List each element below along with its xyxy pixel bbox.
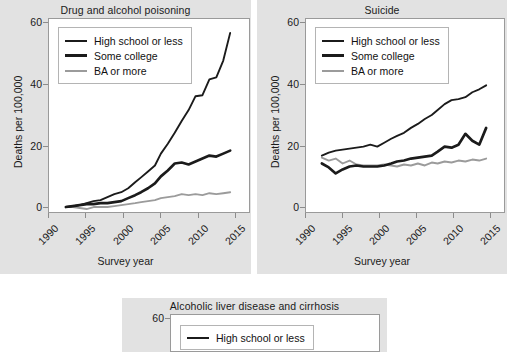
x-tick-label-1995: 1995 xyxy=(68,222,98,252)
series-line-some-college xyxy=(66,151,230,207)
panel-drug-and-alcohol-poisoning: Drug and alcohol poisoning Deaths per 10… xyxy=(0,0,251,274)
legend-item-some-college: Some college xyxy=(322,48,440,63)
y-tick-label-40: 40 xyxy=(273,78,299,90)
x-axis-title: Survey year xyxy=(0,255,251,267)
series-line-ba-or-more xyxy=(66,192,230,209)
x-tick-label-1990: 1990 xyxy=(31,222,61,252)
x-tick-mark-1990 xyxy=(305,213,306,218)
legend-item-ba-or-more: BA or more xyxy=(65,63,183,78)
x-tick-label-1995: 1995 xyxy=(325,222,355,252)
legend-label: High school or less xyxy=(216,332,305,344)
x-tick-mark-2015 xyxy=(490,213,491,218)
y-tick-label-60: 60 xyxy=(273,16,299,28)
series-line-ba-or-more xyxy=(322,158,486,167)
series-line-high-school-or-less xyxy=(322,85,486,155)
y-tick-label-20: 20 xyxy=(273,140,299,152)
legend-item-high-school-or-less: High school or less xyxy=(65,33,183,48)
legend-label: Some college xyxy=(351,50,415,62)
x-tick-label-2015: 2015 xyxy=(473,222,503,252)
series-line-some-college xyxy=(322,128,486,174)
x-tick-mark-1990 xyxy=(48,213,49,218)
y-tick-label-0: 0 xyxy=(16,201,42,213)
legend-line-icon-high-school-or-less xyxy=(322,40,344,42)
panel-title: Alcoholic liver disease and cirrhosis xyxy=(122,300,387,312)
legend: High school or less xyxy=(180,325,314,350)
x-tick-mark-1995 xyxy=(85,213,86,218)
legend-line-icon-high-school-or-less xyxy=(65,40,87,42)
x-tick-mark-2015 xyxy=(235,213,236,218)
x-tick-label-2000: 2000 xyxy=(362,222,392,252)
panel-suicide: Suicide Deaths per 100,000 60 40 20 0 19… xyxy=(257,0,507,274)
legend-label: BA or more xyxy=(351,65,404,77)
panel-alcoholic-liver-disease-and-cirrhosis: Alcoholic liver disease and cirrhosis 60… xyxy=(122,298,387,352)
x-tick-label-2005: 2005 xyxy=(143,222,173,252)
x-tick-mark-2000 xyxy=(379,213,380,218)
y-tick-label-60: 60 xyxy=(16,16,42,28)
legend-label: High school or less xyxy=(351,35,440,47)
x-tick-mark-2010 xyxy=(453,213,454,218)
legend-line-icon-high-school-or-less xyxy=(187,337,209,339)
legend-label: BA or more xyxy=(94,65,147,77)
x-tick-label-2000: 2000 xyxy=(106,222,136,252)
x-tick-mark-2010 xyxy=(198,213,199,218)
y-tick-label-60: 60 xyxy=(138,312,164,324)
x-tick-label-2015: 2015 xyxy=(218,222,248,252)
panel-title: Drug and alcohol poisoning xyxy=(0,4,251,16)
legend-line-icon-ba-or-more xyxy=(322,70,344,72)
legend-label: High school or less xyxy=(94,35,183,47)
y-tick-label-40: 40 xyxy=(16,78,42,90)
legend-line-icon-some-college xyxy=(65,54,87,57)
legend-item-high-school-or-less: High school or less xyxy=(322,33,440,48)
x-tick-mark-2000 xyxy=(123,213,124,218)
legend-item-ba-or-more: BA or more xyxy=(322,63,440,78)
x-tick-label-2010: 2010 xyxy=(181,222,211,252)
legend: High school or less Some college BA or m… xyxy=(315,27,449,84)
x-tick-label-2010: 2010 xyxy=(436,222,466,252)
legend-item-high-school-or-less: High school or less xyxy=(187,330,305,345)
legend-label: Some college xyxy=(94,50,158,62)
x-tick-label-2005: 2005 xyxy=(399,222,429,252)
x-tick-mark-1995 xyxy=(342,213,343,218)
legend-line-icon-ba-or-more xyxy=(65,70,87,72)
legend: High school or less Some college BA or m… xyxy=(58,27,192,84)
legend-item-some-college: Some college xyxy=(65,48,183,63)
x-tick-label-1990: 1990 xyxy=(288,222,318,252)
legend-line-icon-some-college xyxy=(322,54,344,57)
x-tick-mark-2005 xyxy=(416,213,417,218)
y-tick-label-20: 20 xyxy=(16,140,42,152)
y-tick-label-0: 0 xyxy=(273,201,299,213)
x-tick-mark-2005 xyxy=(160,213,161,218)
x-axis-title: Survey year xyxy=(257,255,507,267)
panel-title: Suicide xyxy=(257,4,507,16)
